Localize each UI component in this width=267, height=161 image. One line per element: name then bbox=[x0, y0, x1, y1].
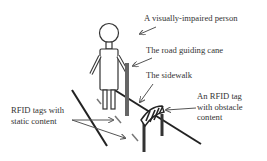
diagram-graphics bbox=[0, 0, 267, 161]
obstacle-barrier bbox=[141, 106, 164, 152]
label-obstacle-line1: An RFID tag bbox=[197, 91, 243, 102]
label-sidewalk: The sidewalk bbox=[146, 70, 192, 81]
guiding-cane bbox=[125, 63, 129, 116]
label-static-rfid-tags: RFID tags with static content bbox=[11, 105, 64, 126]
sidewalk-lines bbox=[72, 89, 201, 146]
rfid-navigation-diagram: A visually-impaired person The road guid… bbox=[0, 0, 267, 161]
person-figure bbox=[91, 24, 127, 110]
label-road-guiding-cane: The road guiding cane bbox=[146, 45, 223, 56]
label-static-line2: static content bbox=[11, 116, 64, 127]
label-obstacle-line2: with obstacle bbox=[197, 102, 243, 113]
label-static-line1: RFID tags with bbox=[11, 105, 64, 116]
label-obstacle-line3: content bbox=[197, 112, 243, 123]
label-visually-impaired-person: A visually-impaired person bbox=[144, 13, 238, 24]
label-obstacle-rfid-tag: An RFID tag with obstacle content bbox=[197, 91, 243, 123]
